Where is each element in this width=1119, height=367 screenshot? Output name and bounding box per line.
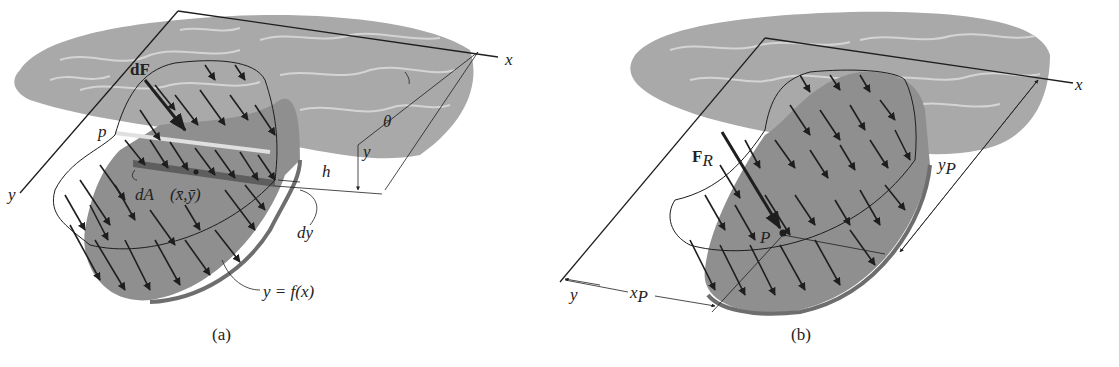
FR-label: FR	[692, 147, 713, 170]
dF-label: dF	[130, 60, 150, 79]
x-axis-label-a: x	[504, 50, 513, 69]
figure-a: x y dF p θ y h dA (x̄,ȳ) dy y = f(x) (a)	[6, 11, 513, 344]
h-label: h	[322, 162, 331, 181]
x-axis-label-b: x	[1074, 75, 1083, 94]
y-axis-label-a: y	[6, 185, 16, 204]
diagram-canvas: x y dF p θ y h dA (x̄,ȳ) dy y = f(x) (a)	[0, 0, 1119, 367]
dA-label: dA	[135, 185, 155, 204]
y-dimension-label: y	[361, 142, 371, 161]
p-label: p	[97, 122, 107, 141]
xP-label: xP	[629, 283, 648, 306]
y-axis-label-b: y	[568, 285, 578, 304]
centroid-label: (x̄,ȳ)	[170, 185, 201, 204]
P-label: P	[759, 228, 770, 247]
dy-label: dy	[297, 223, 314, 242]
caption-a: (a)	[212, 325, 231, 344]
theta-label: θ	[383, 112, 391, 131]
yP-label: yP	[936, 155, 956, 178]
curve-label: y = f(x)	[261, 282, 314, 301]
caption-b: (b)	[791, 325, 811, 344]
centroid-dot	[194, 170, 199, 175]
figure-b: x y FR P xP yP (b)	[560, 12, 1083, 344]
